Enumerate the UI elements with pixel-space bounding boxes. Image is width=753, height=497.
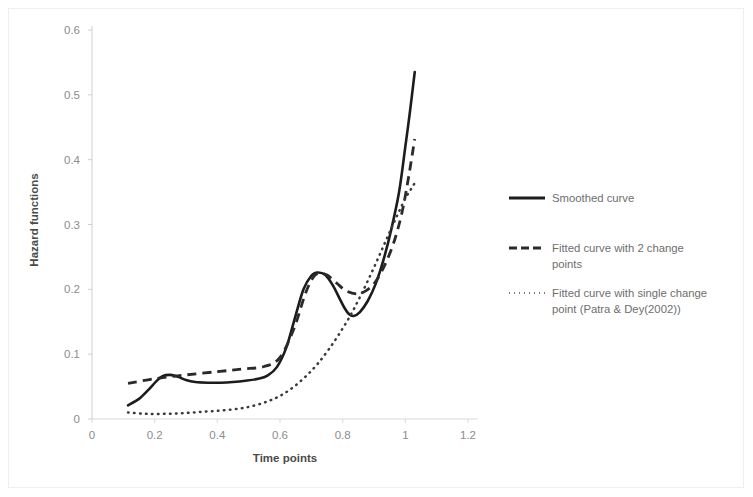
x-axis-tick-marks <box>92 419 468 423</box>
legend-label: Smoothed curve <box>552 192 634 204</box>
chart-figure: 00.10.20.30.40.50.6 00.20.40.60.811.2 Ti… <box>0 0 753 497</box>
data-series-group <box>128 72 416 414</box>
legend-label: Fitted curve with single change <box>552 287 707 299</box>
x-tick-label: 0 <box>89 429 95 441</box>
hazard-functions-plot: 00.10.20.30.40.50.6 00.20.40.60.811.2 Ti… <box>0 0 753 497</box>
series-line-solid <box>128 72 415 405</box>
legend-label: points <box>552 258 582 270</box>
y-tick-label: 0.2 <box>64 283 80 295</box>
x-tick-label: 0.6 <box>272 429 288 441</box>
y-tick-label: 0 <box>74 413 80 425</box>
x-tick-label: 1.2 <box>460 429 476 441</box>
y-axis-tick-marks <box>88 30 92 419</box>
y-axis-tick-labels: 00.10.20.30.40.50.6 <box>64 24 81 425</box>
y-tick-label: 0.6 <box>64 24 80 36</box>
legend-label: Fitted curve with 2 change <box>552 242 684 254</box>
y-tick-label: 0.3 <box>64 219 80 231</box>
x-tick-label: 1 <box>402 429 408 441</box>
x-tick-label: 0.4 <box>209 429 226 441</box>
y-tick-label: 0.5 <box>64 89 80 101</box>
x-axis-title: Time points <box>253 452 317 464</box>
series-line-dashed <box>128 139 415 383</box>
x-tick-label: 0.2 <box>147 429 163 441</box>
x-tick-label: 0.8 <box>335 429 351 441</box>
y-axis-title: Hazard functions <box>28 173 40 266</box>
y-tick-label: 0.4 <box>64 154 81 166</box>
legend-label: point (Patra & Dey(2002)) <box>552 303 681 315</box>
y-tick-label: 0.1 <box>64 348 80 360</box>
chart-legend: Smoothed curveFitted curve with 2 change… <box>509 192 707 315</box>
series-line-dotted <box>128 180 416 414</box>
x-axis-tick-labels: 00.20.40.60.811.2 <box>89 429 476 441</box>
